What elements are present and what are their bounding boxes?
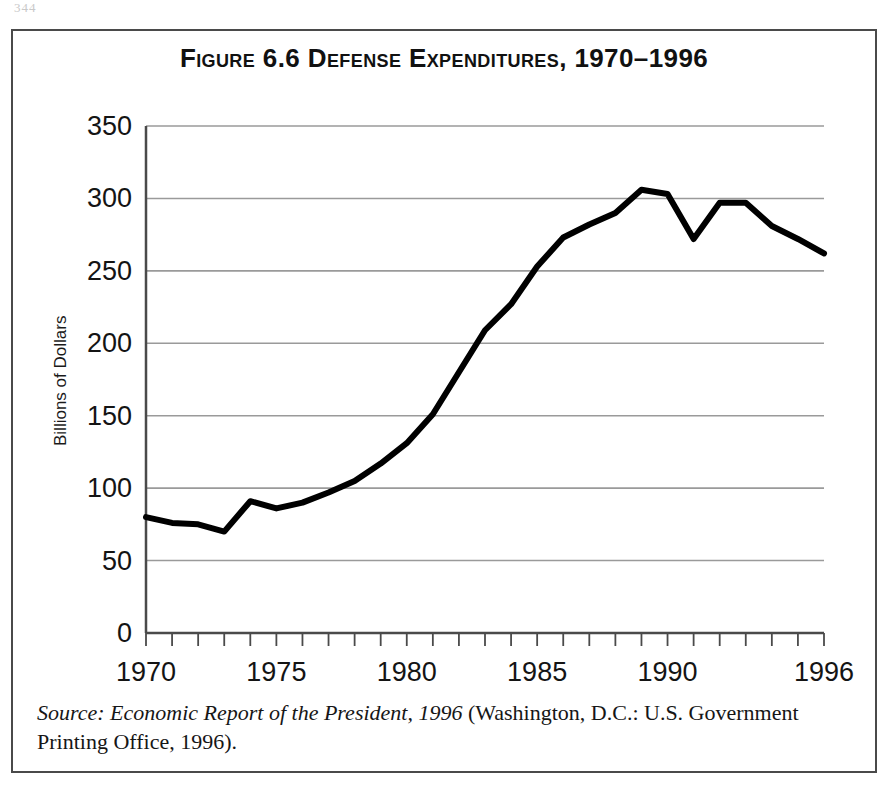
x-tick-label: 1996 [769,657,879,688]
source-note-citation: Source: Economic Report of the President… [37,700,462,725]
y-tick-label: 50 [58,545,132,576]
y-tick-label: 150 [58,400,132,431]
figure-frame: Figure 6.6 Defense Expenditures, 1970–19… [11,29,877,773]
x-tick-label: 1970 [91,657,201,688]
y-tick-label: 0 [58,618,132,649]
x-tick-label: 1975 [221,657,331,688]
x-tick-label: 1985 [482,657,592,688]
gridlines-group [146,126,824,561]
chart-plot-area: Billions of Dollars 05010015020025030035… [13,31,879,775]
defense-expenditures-line [146,190,824,532]
y-tick-label: 200 [58,328,132,359]
x-tick-label: 1980 [352,657,462,688]
source-note: Source: Economic Report of the President… [37,698,857,756]
y-tick-label: 350 [58,111,132,142]
x-tick-label: 1990 [613,657,723,688]
x-tick-marks-group [146,633,824,646]
y-tick-label: 300 [58,183,132,214]
y-tick-label: 100 [58,473,132,504]
y-tick-label: 250 [58,255,132,286]
page-corner-marker: 344 [14,0,37,16]
